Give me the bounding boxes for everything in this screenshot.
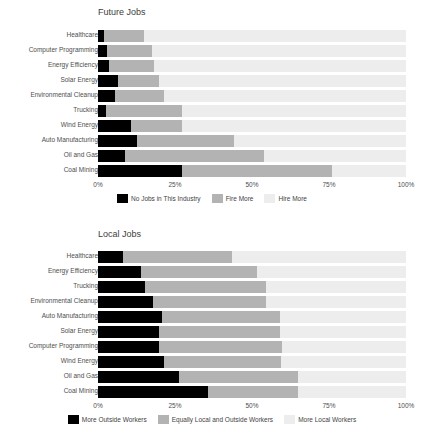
x-axis-tick-label: 0% xyxy=(93,180,102,190)
legend-item[interactable]: Fire More xyxy=(212,194,254,203)
stacked-bar xyxy=(98,45,406,57)
category-label: Oil and Gas xyxy=(0,371,98,381)
category-label: Coal Mining xyxy=(0,165,98,175)
stacked-bar xyxy=(98,341,406,353)
chart-row: Energy Efficiency xyxy=(0,58,424,73)
bar-segment-series-2 xyxy=(118,75,159,87)
chart-row: Auto Manufacturing xyxy=(0,133,424,148)
bar-segment-series-2 xyxy=(145,281,265,293)
stacked-bar xyxy=(98,296,406,308)
bar-segment-series-3 xyxy=(298,386,406,398)
chart-row: Trucking xyxy=(0,279,424,294)
chart-row: Auto Manufacturing xyxy=(0,309,424,324)
bar-segment-series-3 xyxy=(266,296,406,308)
bar-segment-series-2 xyxy=(125,150,264,162)
chart-row: Environmental Cleanup xyxy=(0,294,424,309)
bar-segment-series-1 xyxy=(98,356,164,368)
bar-segment-series-2 xyxy=(106,105,182,117)
chart-row: Environmental Cleanup xyxy=(0,88,424,103)
bar-segment-series-2 xyxy=(115,90,164,102)
bar-segment-series-2 xyxy=(208,386,298,398)
bar-rows-future-jobs: HealthcareComputer ProgrammingEnergy Eff… xyxy=(0,28,424,178)
legend-label: More Outside Workers xyxy=(82,415,147,424)
bar-segment-series-1 xyxy=(98,45,107,57)
bar-segment-series-2 xyxy=(141,266,257,278)
chart-row: Healthcare xyxy=(0,249,424,264)
bar-segment-series-1 xyxy=(98,386,208,398)
chart-row: Solar Energy xyxy=(0,73,424,88)
x-axis-local-jobs: 0%25%50%75%100% xyxy=(0,401,424,413)
bar-segment-series-3 xyxy=(154,60,406,72)
bar-segment-series-1 xyxy=(98,281,145,293)
bar-segment-series-1 xyxy=(98,75,118,87)
stacked-bar xyxy=(98,135,406,147)
chart-row: Wind Energy xyxy=(0,354,424,369)
stacked-bar xyxy=(98,251,406,263)
x-axis-tick-label: 25% xyxy=(168,401,181,411)
bar-segment-series-3 xyxy=(234,135,406,147)
stacked-bar-chart-figure: Future Jobs HealthcareComputer Programmi… xyxy=(0,0,424,435)
legend-swatch-icon xyxy=(117,194,128,203)
x-axis-tick-label: 50% xyxy=(245,180,258,190)
chart-row: Trucking xyxy=(0,103,424,118)
legend-swatch-icon xyxy=(158,415,169,424)
category-label: Wind Energy xyxy=(0,356,98,366)
chart-title-local-jobs: Local Jobs xyxy=(98,228,141,240)
bar-segment-series-2 xyxy=(109,60,155,72)
bar-segment-series-2 xyxy=(123,251,232,263)
bar-segment-series-2 xyxy=(159,341,282,353)
stacked-bar xyxy=(98,311,406,323)
stacked-bar xyxy=(98,90,406,102)
legend-item[interactable]: No Jobs in This Industry xyxy=(117,194,201,203)
stacked-bar xyxy=(98,356,406,368)
bar-segment-series-1 xyxy=(98,371,179,383)
bar-segment-series-2 xyxy=(131,120,182,132)
bar-segment-series-2 xyxy=(153,296,267,308)
category-label: Auto Manufacturing xyxy=(0,311,98,321)
bar-segment-series-1 xyxy=(98,135,137,147)
bar-segment-series-1 xyxy=(98,165,182,177)
bar-segment-series-1 xyxy=(98,120,131,132)
chart-row: Coal Mining xyxy=(0,163,424,178)
category-label: Trucking xyxy=(0,281,98,291)
category-label: Energy Efficiency xyxy=(0,266,98,276)
bar-rows-local-jobs: HealthcareEnergy EfficiencyTruckingEnvir… xyxy=(0,249,424,399)
bar-segment-series-2 xyxy=(164,356,281,368)
legend-label: Fire More xyxy=(226,194,254,203)
x-axis-tick-label: 100% xyxy=(398,401,415,411)
stacked-bar xyxy=(98,30,406,42)
category-label: Solar Energy xyxy=(0,326,98,336)
legend-future-jobs: No Jobs in This IndustryFire MoreHire Mo… xyxy=(0,194,424,203)
bar-segment-series-1 xyxy=(98,311,162,323)
bar-segment-series-2 xyxy=(137,135,235,147)
legend-label: Hire More xyxy=(278,194,307,203)
legend-swatch-icon xyxy=(264,194,275,203)
legend-label: No Jobs in This Industry xyxy=(131,194,201,203)
bar-segment-series-3 xyxy=(264,150,406,162)
x-axis-future-jobs: 0%25%50%75%100% xyxy=(0,180,424,192)
bar-segment-series-3 xyxy=(332,165,406,177)
legend-swatch-icon xyxy=(212,194,223,203)
stacked-bar xyxy=(98,371,406,383)
legend-item[interactable]: More Outside Workers xyxy=(68,415,147,424)
bar-segment-series-2 xyxy=(162,311,280,323)
legend-item[interactable]: Equally Local and Outside Workers xyxy=(158,415,273,424)
legend-item[interactable]: Hire More xyxy=(264,194,307,203)
bar-segment-series-1 xyxy=(98,296,153,308)
bar-segment-series-2 xyxy=(107,45,152,57)
bar-segment-series-2 xyxy=(159,326,279,338)
category-label: Oil and Gas xyxy=(0,150,98,160)
stacked-bar xyxy=(98,150,406,162)
category-label: Wind Energy xyxy=(0,120,98,130)
chart-row: Healthcare xyxy=(0,28,424,43)
stacked-bar xyxy=(98,266,406,278)
legend-item[interactable]: More Local Workers xyxy=(284,415,356,424)
category-label: Healthcare xyxy=(0,30,98,40)
x-axis-tick-label: 75% xyxy=(322,401,335,411)
bar-segment-series-1 xyxy=(98,105,106,117)
chart-row: Energy Efficiency xyxy=(0,264,424,279)
bar-segment-series-1 xyxy=(98,251,123,263)
bar-segment-series-3 xyxy=(280,311,406,323)
chart-row: Oil and Gas xyxy=(0,369,424,384)
category-label: Computer Programming xyxy=(0,341,98,351)
